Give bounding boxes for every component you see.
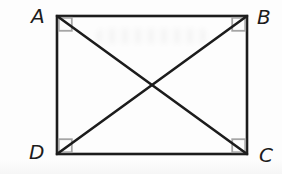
vertex-label-d: D [29,140,44,164]
rectangle-diagram-svg: A B C D [0,0,282,174]
vertex-label-a: A [29,4,45,28]
geometry-figure-rectangle-abcd: A B C D [0,0,282,174]
vertex-label-b: B [257,5,271,29]
vertex-label-c: C [259,143,273,167]
